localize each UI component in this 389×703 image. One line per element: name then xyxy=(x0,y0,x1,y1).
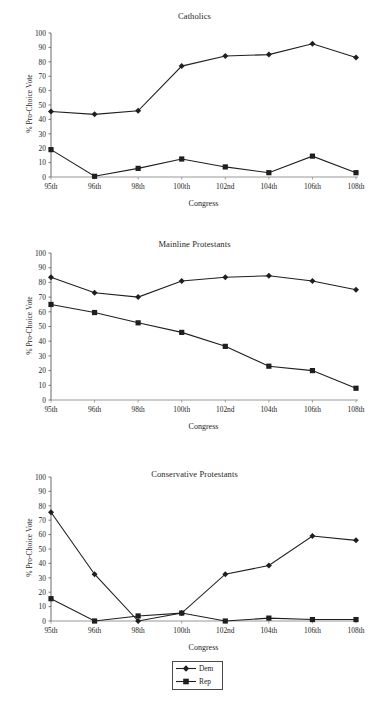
data-point-rep-98th xyxy=(136,166,141,171)
x-axis-tick-label: 98th xyxy=(121,182,155,191)
data-point-rep-95th xyxy=(48,596,53,601)
data-point-rep-106th xyxy=(310,154,315,159)
series-line-dem xyxy=(51,276,356,297)
data-point-rep-106th xyxy=(310,368,315,373)
x-axis-tick-label: 106th xyxy=(295,626,329,635)
data-point-rep-95th xyxy=(48,302,53,307)
data-point-rep-98th xyxy=(136,613,141,618)
data-point-rep-96th xyxy=(92,618,97,623)
x-axis-tick-label: 108th xyxy=(339,182,373,191)
x-axis-tick-label: 96th xyxy=(78,405,112,414)
data-point-dem-104th xyxy=(266,52,272,58)
series-line-rep xyxy=(51,304,356,388)
y-axis-tick-label: 10 xyxy=(26,381,46,390)
square-marker-icon xyxy=(175,676,197,687)
series-line-dem xyxy=(51,44,356,115)
x-axis-tick-label: 102nd xyxy=(208,182,242,191)
y-axis-tick-label: 10 xyxy=(26,158,46,167)
data-point-rep-108th xyxy=(353,386,358,391)
x-axis-tick-label: 102nd xyxy=(208,405,242,414)
y-axis-title: % Pro-Choice Vote xyxy=(25,504,34,592)
x-axis-tick-label: 98th xyxy=(121,626,155,635)
data-point-dem-95th xyxy=(48,274,54,280)
diamond-marker-icon xyxy=(175,663,197,674)
data-point-dem-102nd xyxy=(222,274,228,280)
data-point-dem-106th xyxy=(309,533,315,539)
x-axis-tick-label: 96th xyxy=(78,626,112,635)
data-point-dem-100th xyxy=(179,278,185,284)
legend-label: Dem xyxy=(199,664,213,673)
y-axis-tick-label: 100 xyxy=(26,29,46,38)
data-point-dem-96th xyxy=(92,111,98,117)
data-point-rep-108th xyxy=(353,617,358,622)
y-axis-tick-label: 90 xyxy=(26,263,46,272)
y-axis-tick-label: 10 xyxy=(26,602,46,611)
data-point-rep-102nd xyxy=(223,618,228,623)
chart-panel-catholics: Catholics 0102030405060708090100% Pro-Ch… xyxy=(0,0,389,230)
y-axis-tick-label: 100 xyxy=(26,249,46,258)
data-point-rep-102nd xyxy=(223,344,228,349)
y-axis-tick-label: 90 xyxy=(26,43,46,52)
x-axis-tick-label: 102nd xyxy=(208,626,242,635)
x-axis-tick-label: 96th xyxy=(78,182,112,191)
data-point-dem-98th xyxy=(135,294,141,300)
x-axis-title: Congress xyxy=(51,643,356,652)
data-point-dem-106th xyxy=(309,41,315,47)
data-point-dem-108th xyxy=(353,287,359,293)
data-point-dem-96th xyxy=(92,290,98,296)
chart-canvas xyxy=(0,0,389,230)
data-point-dem-104th xyxy=(266,563,272,569)
data-point-rep-100th xyxy=(179,610,184,615)
legend-label: Rep xyxy=(199,677,211,686)
chart-panel-conservative-protestants: Conservative Protestants 010203040506070… xyxy=(0,460,389,703)
x-axis-tick-label: 108th xyxy=(339,626,373,635)
x-axis-tick-label: 100th xyxy=(165,626,199,635)
data-point-rep-95th xyxy=(48,147,53,152)
data-point-rep-100th xyxy=(179,330,184,335)
x-axis-tick-label: 98th xyxy=(121,405,155,414)
series-line-dem xyxy=(51,512,356,621)
x-axis-title: Congress xyxy=(51,422,356,431)
x-axis-tick-label: 95th xyxy=(34,626,68,635)
x-axis-tick-label: 100th xyxy=(165,405,199,414)
data-point-rep-104th xyxy=(266,364,271,369)
x-axis-title: Congress xyxy=(51,199,356,208)
x-axis-tick-label: 95th xyxy=(34,405,68,414)
chart-panel-mainline-protestants: Mainline Protestants 0102030405060708090… xyxy=(0,230,389,460)
data-point-dem-104th xyxy=(266,273,272,279)
data-point-dem-95th xyxy=(48,108,54,114)
y-axis-tick-label: 0 xyxy=(26,396,46,405)
legend-entry-rep: Rep xyxy=(173,675,222,688)
y-axis-title: % Pro-Choice Vote xyxy=(25,281,34,369)
data-point-rep-102nd xyxy=(223,164,228,169)
data-point-dem-106th xyxy=(309,278,315,284)
chart-legend: DemRep xyxy=(172,661,223,690)
data-point-rep-104th xyxy=(266,616,271,621)
data-point-rep-104th xyxy=(266,170,271,175)
data-point-dem-102nd xyxy=(222,53,228,59)
data-point-dem-108th xyxy=(353,537,359,543)
data-point-rep-106th xyxy=(310,617,315,622)
data-point-rep-100th xyxy=(179,156,184,161)
data-point-rep-98th xyxy=(136,320,141,325)
x-axis-tick-label: 106th xyxy=(295,405,329,414)
x-axis-tick-label: 104th xyxy=(252,405,286,414)
x-axis-tick-label: 106th xyxy=(295,182,329,191)
y-axis-tick-label: 90 xyxy=(26,487,46,496)
legend-entry-dem: Dem xyxy=(173,662,222,675)
x-axis-tick-label: 108th xyxy=(339,405,373,414)
data-point-rep-108th xyxy=(353,170,358,175)
y-axis-tick-label: 0 xyxy=(26,173,46,182)
y-axis-title: % Pro-Choice Vote xyxy=(25,60,34,148)
data-point-rep-96th xyxy=(92,174,97,179)
y-axis-tick-label: 0 xyxy=(26,617,46,626)
x-axis-tick-label: 104th xyxy=(252,182,286,191)
x-axis-tick-label: 100th xyxy=(165,182,199,191)
data-point-dem-108th xyxy=(353,54,359,60)
x-axis-tick-label: 95th xyxy=(34,182,68,191)
x-axis-tick-label: 104th xyxy=(252,626,286,635)
data-point-rep-96th xyxy=(92,310,97,315)
y-axis-tick-label: 100 xyxy=(26,473,46,482)
